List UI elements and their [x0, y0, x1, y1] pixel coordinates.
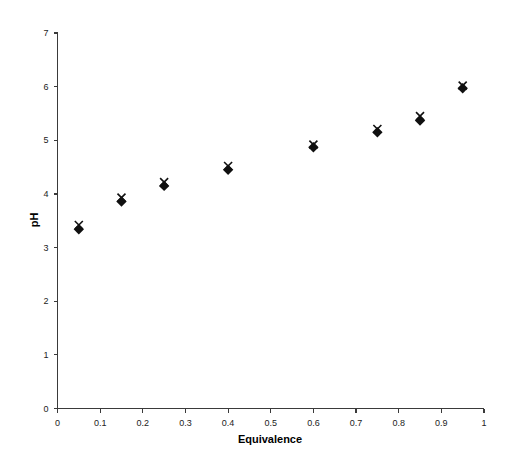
y-tick-label: 5 [43, 135, 48, 145]
x-tick-label: 0.3 [179, 418, 192, 428]
x-axis: 00.10.20.30.40.50.60.70.80.91 Equivalenc… [55, 409, 487, 446]
x-axis-title: Equivalence [238, 433, 302, 445]
chart-canvas: 01234567 pH 00.10.20.30.40.50.60.70.80.9… [0, 0, 512, 470]
x-tick-label: 1 [481, 418, 486, 428]
x-tick-label: 0.2 [137, 418, 150, 428]
y-tick-label: 7 [43, 28, 48, 38]
y-tick-label: 2 [43, 296, 48, 306]
x-tick-label: 0.7 [350, 418, 363, 428]
x-tick-label: 0.9 [435, 418, 448, 428]
data-point-markers [74, 82, 468, 235]
y-axis-title: pH [28, 213, 40, 228]
y-axis: 01234567 pH [28, 28, 58, 414]
y-tick-label: 0 [43, 404, 48, 414]
x-tick-label: 0.5 [264, 418, 277, 428]
y-tick-label: 6 [43, 82, 48, 92]
ph-equivalence-scatter-chart: 01234567 pH 00.10.20.30.40.50.60.70.80.9… [0, 0, 512, 470]
y-tick-label: 1 [43, 350, 48, 360]
x-tick-label: 0.1 [94, 418, 107, 428]
x-tick-label: 0.8 [392, 418, 405, 428]
y-tick-label: 3 [43, 243, 48, 253]
x-tick-label: 0.6 [307, 418, 320, 428]
y-tick-label: 4 [43, 189, 48, 199]
y-axis-tick-labels: 01234567 [43, 28, 48, 414]
x-axis-tick-labels: 00.10.20.30.40.50.60.70.80.91 [55, 418, 487, 428]
x-tick-label: 0.4 [222, 418, 235, 428]
x-tick-label: 0 [55, 418, 60, 428]
